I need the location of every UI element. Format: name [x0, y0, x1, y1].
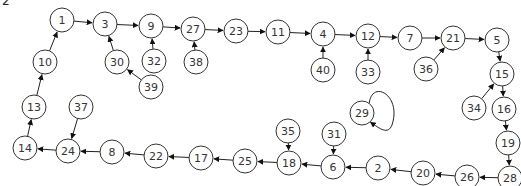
node-label: 3 — [102, 18, 109, 31]
edge-37-to-24 — [72, 119, 78, 139]
edge-6-to-18 — [302, 164, 321, 166]
node-label: 25 — [238, 155, 252, 168]
node-label: 8 — [109, 146, 116, 159]
edge-10-to-1 — [50, 32, 58, 51]
node-label: 30 — [110, 56, 124, 69]
node-label: 1 — [59, 14, 66, 27]
node-label: 20 — [416, 167, 430, 180]
edge-18-to-25 — [258, 162, 277, 163]
node-33: 33 — [356, 60, 380, 84]
node-26: 26 — [455, 165, 479, 186]
node-label: 26 — [460, 171, 474, 184]
edge-4-to-12 — [335, 35, 355, 36]
node-1: 1 — [50, 8, 74, 32]
node-39: 39 — [139, 75, 163, 99]
node-label: 22 — [149, 150, 163, 163]
node-label: 35 — [281, 125, 295, 138]
edge-13-to-10 — [37, 75, 42, 96]
edge-3-to-9 — [117, 25, 138, 26]
node-label: 29 — [355, 107, 369, 120]
edge-12-to-7 — [380, 37, 397, 38]
node-11: 11 — [266, 20, 290, 44]
edge-22-to-8 — [125, 153, 144, 155]
node-label: 5 — [494, 34, 501, 47]
edge-11-to-4 — [290, 33, 310, 34]
node-label: 16 — [497, 103, 511, 116]
node-label: 7 — [407, 32, 414, 45]
edge-17-to-22 — [169, 157, 189, 158]
edge-24-to-14 — [38, 149, 56, 150]
node-label: 37 — [74, 101, 88, 114]
edge-34-to-15 — [482, 84, 494, 99]
node-label: 40 — [316, 64, 330, 77]
node-24: 24 — [56, 139, 80, 163]
edge-21-to-5 — [465, 39, 484, 40]
edge-25-to-17 — [214, 159, 233, 160]
node-label: 4 — [320, 28, 327, 41]
edge-26-to-20 — [436, 174, 455, 176]
edge-1-to-3 — [74, 21, 92, 23]
node-17: 17 — [189, 146, 213, 170]
node-5: 5 — [485, 28, 509, 52]
node-label: 39 — [144, 81, 158, 94]
node-4: 4 — [311, 22, 335, 46]
node-20: 20 — [411, 161, 435, 185]
node-25: 25 — [233, 149, 257, 173]
node-31: 31 — [322, 122, 346, 146]
node-label: 9 — [148, 20, 155, 33]
node-12: 12 — [356, 24, 380, 48]
edge-38-to-27 — [194, 42, 195, 50]
node-9: 9 — [139, 14, 163, 38]
node-18: 18 — [277, 151, 301, 175]
edge-20-to-2 — [391, 169, 411, 171]
node-15: 15 — [490, 62, 514, 86]
edge-15-to-16 — [503, 86, 504, 96]
node-label: 23 — [229, 25, 243, 38]
edge-39-to-30 — [127, 70, 141, 80]
node-21: 21 — [441, 26, 465, 50]
edge-14-to-13 — [28, 120, 32, 137]
edge-16-to-19 — [505, 121, 506, 130]
node-37: 37 — [69, 95, 93, 119]
node-label: 27 — [186, 23, 200, 36]
node-label: 13 — [27, 101, 41, 114]
edge-27-to-23 — [205, 30, 223, 31]
node-38: 38 — [184, 50, 208, 74]
nodes-layer: 1392723114127215103032384033361539133734… — [13, 8, 521, 186]
edge-30-to-3 — [109, 36, 113, 50]
node-13: 13 — [22, 95, 46, 119]
node-label: 15 — [495, 68, 509, 81]
node-8: 8 — [100, 140, 124, 164]
node-30: 30 — [105, 50, 129, 74]
edge-5-to-15 — [499, 52, 500, 61]
node-label: 6 — [330, 161, 337, 174]
node-label: 19 — [501, 137, 515, 150]
node-35: 35 — [276, 119, 300, 143]
node-34: 34 — [462, 96, 486, 120]
node-16: 16 — [492, 97, 516, 121]
node-label: 34 — [467, 102, 481, 115]
node-label: 17 — [194, 152, 208, 165]
edge-19-to-28 — [509, 155, 510, 165]
node-label: 32 — [147, 55, 161, 68]
node-27: 27 — [181, 17, 205, 41]
node-label: 18 — [282, 157, 296, 170]
node-label: 2 — [375, 162, 382, 175]
node-6: 6 — [321, 155, 345, 179]
edge-32-to-9 — [152, 39, 153, 49]
node-2: 2 — [366, 156, 390, 180]
node-label: 33 — [361, 66, 375, 79]
node-7: 7 — [398, 26, 422, 50]
node-40: 40 — [311, 58, 335, 82]
node-10: 10 — [33, 50, 57, 74]
directed-graph-diagram: 1392723114127215103032384033361539133734… — [0, 0, 521, 186]
node-22: 22 — [144, 144, 168, 168]
node-label: 31 — [327, 128, 341, 141]
node-32: 32 — [142, 49, 166, 73]
node-label: 10 — [38, 56, 52, 69]
node-label: 36 — [419, 63, 433, 76]
node-19: 19 — [496, 131, 520, 155]
node-label: 12 — [361, 30, 375, 43]
node-label: 24 — [61, 145, 75, 158]
node-36: 36 — [414, 57, 438, 81]
